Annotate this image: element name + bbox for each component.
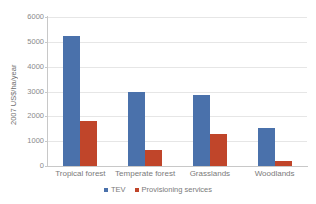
bar-tev xyxy=(128,92,145,166)
y-tick-label: 0 xyxy=(2,162,44,170)
legend-item[interactable]: Provisioning services xyxy=(135,185,212,194)
y-tick-label: 5000 xyxy=(2,38,44,46)
bar-provisioning xyxy=(210,134,227,166)
x-axis-line xyxy=(47,166,308,167)
bar-group xyxy=(242,17,307,166)
bar-chart: 2007 US$/ha/year 60005000400030002000100… xyxy=(0,0,316,204)
y-tick-label: 6000 xyxy=(2,13,44,21)
bar-group xyxy=(48,17,113,166)
x-axis-labels: Tropical forestTemperate forestGrassland… xyxy=(48,168,307,182)
bar-provisioning xyxy=(275,161,292,166)
legend-swatch-icon xyxy=(135,188,139,192)
bar-group xyxy=(178,17,243,166)
legend-label: TEV xyxy=(111,185,126,194)
legend-item[interactable]: TEV xyxy=(104,185,126,194)
y-tick-label: 3000 xyxy=(2,88,44,96)
bar-tev xyxy=(63,36,80,166)
x-tick-label: Tropical forest xyxy=(48,168,113,180)
bar-provisioning xyxy=(80,121,97,166)
x-tick-label: Grasslands xyxy=(178,168,243,180)
bar-group xyxy=(113,17,178,166)
x-tick-label: Woodlands xyxy=(242,168,307,180)
legend-swatch-icon xyxy=(104,188,108,192)
plot-area xyxy=(48,17,307,166)
x-tick-label: Temperate forest xyxy=(113,168,178,180)
bar-tev xyxy=(258,128,275,166)
chart-legend: TEVProvisioning services xyxy=(0,185,316,194)
bar-provisioning xyxy=(145,150,162,166)
y-axis-ticks: 6000500040003000200010000 xyxy=(0,17,44,166)
bar-tev xyxy=(193,95,210,166)
y-tick-label: 1000 xyxy=(2,137,44,145)
legend-label: Provisioning services xyxy=(142,185,212,194)
y-tick-label: 2000 xyxy=(2,112,44,120)
y-tick-label: 4000 xyxy=(2,63,44,71)
